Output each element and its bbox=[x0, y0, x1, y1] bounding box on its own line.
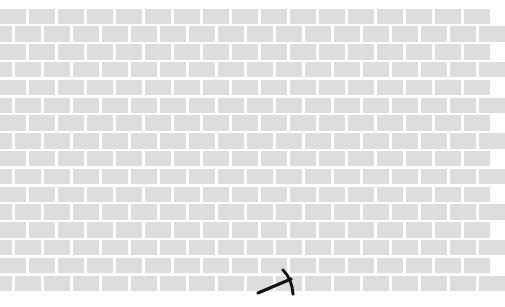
brick[interactable] bbox=[363, 98, 389, 114]
brick[interactable] bbox=[0, 115, 26, 131]
brick[interactable] bbox=[116, 80, 142, 96]
brick[interactable] bbox=[29, 187, 55, 203]
brick[interactable] bbox=[450, 240, 476, 256]
brick[interactable] bbox=[276, 169, 302, 185]
brick[interactable] bbox=[58, 258, 84, 274]
brick[interactable] bbox=[290, 258, 316, 274]
brick[interactable] bbox=[479, 62, 505, 78]
brick[interactable] bbox=[29, 151, 55, 167]
brick[interactable] bbox=[290, 80, 316, 96]
brick[interactable] bbox=[392, 26, 418, 42]
brick[interactable] bbox=[44, 62, 70, 78]
brick[interactable] bbox=[319, 9, 345, 25]
brick[interactable] bbox=[203, 80, 229, 96]
brick[interactable] bbox=[15, 98, 41, 114]
brick[interactable] bbox=[406, 44, 432, 60]
brick[interactable] bbox=[276, 240, 302, 256]
brick[interactable] bbox=[15, 169, 41, 185]
brick[interactable] bbox=[232, 80, 258, 96]
brick[interactable] bbox=[174, 187, 200, 203]
brick[interactable] bbox=[203, 222, 229, 238]
brick[interactable] bbox=[363, 169, 389, 185]
brick[interactable] bbox=[247, 276, 273, 292]
brick[interactable] bbox=[334, 204, 360, 220]
brick[interactable] bbox=[73, 26, 99, 42]
brick[interactable] bbox=[160, 98, 186, 114]
brick[interactable] bbox=[15, 240, 41, 256]
brick[interactable] bbox=[0, 151, 26, 167]
brick[interactable] bbox=[0, 62, 12, 78]
brick[interactable] bbox=[377, 9, 403, 25]
brick[interactable] bbox=[435, 44, 461, 60]
brick[interactable] bbox=[29, 80, 55, 96]
brick[interactable] bbox=[247, 98, 273, 114]
brick[interactable] bbox=[261, 44, 287, 60]
brick[interactable] bbox=[44, 204, 70, 220]
brick[interactable] bbox=[363, 26, 389, 42]
brick[interactable] bbox=[377, 187, 403, 203]
brick[interactable] bbox=[102, 204, 128, 220]
brick[interactable] bbox=[406, 258, 432, 274]
brick[interactable] bbox=[174, 9, 200, 25]
brick[interactable] bbox=[377, 44, 403, 60]
brick[interactable] bbox=[377, 151, 403, 167]
brick[interactable] bbox=[131, 276, 157, 292]
brick[interactable] bbox=[435, 151, 461, 167]
brick[interactable] bbox=[377, 222, 403, 238]
brick[interactable] bbox=[131, 133, 157, 149]
brick[interactable] bbox=[363, 204, 389, 220]
brick[interactable] bbox=[464, 258, 490, 274]
brick[interactable] bbox=[305, 276, 331, 292]
brick[interactable] bbox=[421, 204, 447, 220]
brick[interactable] bbox=[305, 204, 331, 220]
brick[interactable] bbox=[232, 258, 258, 274]
brick[interactable] bbox=[160, 62, 186, 78]
brick[interactable] bbox=[73, 240, 99, 256]
brick[interactable] bbox=[421, 169, 447, 185]
brick[interactable] bbox=[189, 240, 215, 256]
brick[interactable] bbox=[0, 258, 26, 274]
brick[interactable] bbox=[102, 62, 128, 78]
brick[interactable] bbox=[450, 204, 476, 220]
brick[interactable] bbox=[44, 98, 70, 114]
brick[interactable] bbox=[377, 80, 403, 96]
brick[interactable] bbox=[131, 26, 157, 42]
brick[interactable] bbox=[348, 151, 374, 167]
brick[interactable] bbox=[290, 44, 316, 60]
brick[interactable] bbox=[218, 169, 244, 185]
brick[interactable] bbox=[305, 26, 331, 42]
brick[interactable] bbox=[160, 240, 186, 256]
brick[interactable] bbox=[232, 9, 258, 25]
brick[interactable] bbox=[58, 44, 84, 60]
brick[interactable] bbox=[450, 169, 476, 185]
brick[interactable] bbox=[363, 62, 389, 78]
brick[interactable] bbox=[87, 80, 113, 96]
brick[interactable] bbox=[232, 115, 258, 131]
brick[interactable] bbox=[116, 115, 142, 131]
brick[interactable] bbox=[160, 133, 186, 149]
brick[interactable] bbox=[0, 44, 26, 60]
brick[interactable] bbox=[319, 187, 345, 203]
brick[interactable] bbox=[348, 44, 374, 60]
brick[interactable] bbox=[73, 62, 99, 78]
brick[interactable] bbox=[232, 187, 258, 203]
brick[interactable] bbox=[189, 98, 215, 114]
brick[interactable] bbox=[131, 240, 157, 256]
brick[interactable] bbox=[392, 62, 418, 78]
brick[interactable] bbox=[290, 9, 316, 25]
brick[interactable] bbox=[247, 240, 273, 256]
brick[interactable] bbox=[160, 204, 186, 220]
brick[interactable] bbox=[464, 151, 490, 167]
brick[interactable] bbox=[0, 276, 12, 292]
brick[interactable] bbox=[145, 44, 171, 60]
brick[interactable] bbox=[160, 276, 186, 292]
brick[interactable] bbox=[0, 80, 26, 96]
brick[interactable] bbox=[102, 98, 128, 114]
brick[interactable] bbox=[450, 133, 476, 149]
brick[interactable] bbox=[131, 204, 157, 220]
brick[interactable] bbox=[102, 133, 128, 149]
brick[interactable] bbox=[218, 98, 244, 114]
brick[interactable] bbox=[421, 62, 447, 78]
brick[interactable] bbox=[87, 115, 113, 131]
brick[interactable] bbox=[218, 204, 244, 220]
